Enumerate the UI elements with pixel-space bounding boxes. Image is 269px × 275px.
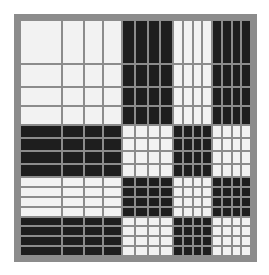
figure-stage: Walsh–Hadamard basis mosaic (0, 0, 269, 275)
walsh-mosaic (14, 14, 257, 262)
mosaic-frame (14, 14, 257, 262)
